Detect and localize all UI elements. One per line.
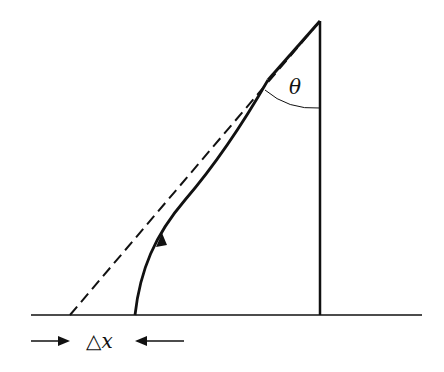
displacement-label: △x <box>86 329 113 353</box>
upper-solid-segment <box>268 21 320 80</box>
right-pointing-arrow-icon <box>58 336 70 346</box>
left-pointing-arrow-icon <box>135 336 147 346</box>
curved-path <box>135 80 268 315</box>
diagram-canvas: θ △x <box>0 0 444 372</box>
angle-label: θ <box>289 75 301 99</box>
